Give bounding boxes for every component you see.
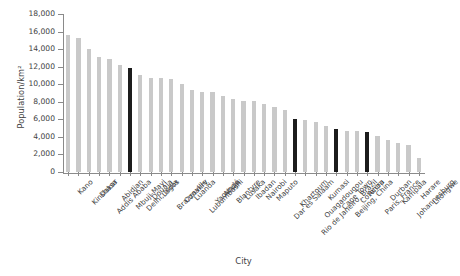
bar bbox=[262, 104, 266, 172]
bar bbox=[252, 101, 256, 172]
bar bbox=[180, 84, 184, 172]
y-axis-tick: 8,000 bbox=[58, 102, 63, 103]
y-axis-tick-label: 2,000 bbox=[33, 148, 55, 159]
y-axis-tick: 16,000 bbox=[58, 32, 63, 33]
bar bbox=[128, 68, 132, 172]
y-axis-tick: 2,000 bbox=[58, 154, 63, 155]
bar bbox=[169, 79, 173, 172]
plot-area: 02,0004,0006,0008,00010,00012,00014,0001… bbox=[63, 14, 424, 172]
bar bbox=[231, 99, 235, 172]
bar bbox=[345, 131, 349, 172]
bar bbox=[159, 78, 163, 172]
bar bbox=[107, 59, 111, 172]
y-axis-tick-label: 16,000 bbox=[28, 26, 55, 37]
y-axis-tick-label: 14,000 bbox=[28, 43, 55, 54]
y-axis-tick-label: 0 bbox=[50, 166, 55, 177]
y-axis-tick: 4,000 bbox=[58, 137, 63, 138]
y-axis-tick: 6,000 bbox=[58, 119, 63, 120]
y-axis-tick: 14,000 bbox=[58, 49, 63, 50]
bar bbox=[210, 92, 214, 172]
bar bbox=[324, 126, 328, 172]
y-axis-tick-label: 8,000 bbox=[33, 96, 55, 107]
bar bbox=[118, 65, 122, 172]
y-axis-tick-label: 12,000 bbox=[28, 61, 55, 72]
bar bbox=[293, 119, 297, 172]
bar bbox=[406, 145, 410, 172]
y-axis-title: Population/km² bbox=[14, 12, 28, 182]
bar bbox=[97, 57, 101, 172]
bar bbox=[314, 122, 318, 172]
x-axis-tick-label: Dakar bbox=[98, 178, 119, 199]
x-axis-title: City bbox=[63, 256, 424, 266]
y-axis-tick-label: 10,000 bbox=[28, 78, 55, 89]
bar bbox=[149, 78, 153, 172]
bar bbox=[138, 75, 142, 172]
y-axis-tick-label: 6,000 bbox=[33, 113, 55, 124]
bar bbox=[396, 143, 400, 172]
y-axis-tick: 18,000 bbox=[58, 14, 63, 15]
bar bbox=[66, 35, 70, 172]
bar bbox=[241, 101, 245, 172]
bar bbox=[76, 38, 80, 172]
bar bbox=[417, 158, 421, 172]
bar bbox=[365, 132, 369, 172]
bar bbox=[386, 140, 390, 172]
y-axis-tick-label: 4,000 bbox=[33, 131, 55, 142]
bar bbox=[87, 49, 91, 172]
x-axis-tick-label: Kano bbox=[76, 178, 94, 196]
y-axis-tick: 12,000 bbox=[58, 67, 63, 68]
bar bbox=[190, 90, 194, 172]
y-axis-tick: 0 bbox=[58, 172, 63, 173]
bar bbox=[221, 96, 225, 172]
y-axis-tick-label: 18,000 bbox=[28, 8, 55, 19]
bar bbox=[272, 107, 276, 172]
bar bbox=[334, 129, 338, 172]
bar bbox=[303, 120, 307, 172]
bar bbox=[200, 92, 204, 172]
bar bbox=[355, 131, 359, 172]
bar bbox=[283, 110, 287, 172]
y-axis-tick: 10,000 bbox=[58, 84, 63, 85]
bar bbox=[375, 136, 379, 172]
